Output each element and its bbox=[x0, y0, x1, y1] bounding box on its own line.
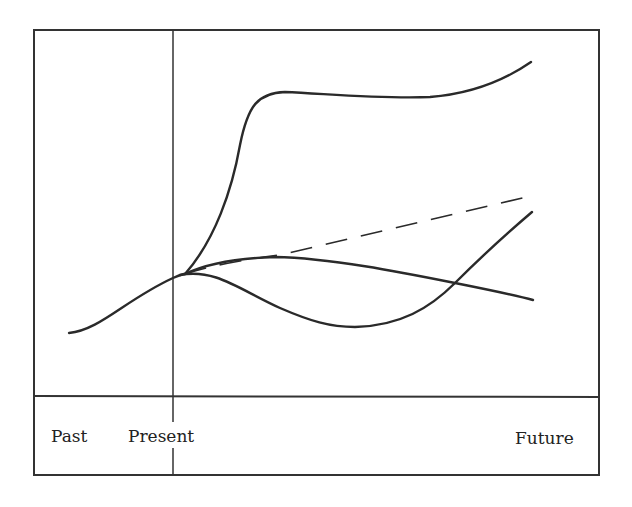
gradual-decline-curve bbox=[185, 257, 533, 300]
label-band-divider bbox=[34, 396, 599, 397]
label-future: Future bbox=[515, 428, 574, 448]
past-trend-curve bbox=[69, 273, 190, 333]
extrapolated-trend-dashed bbox=[185, 196, 531, 274]
label-past: Past bbox=[51, 426, 88, 446]
diagram-frame bbox=[34, 30, 599, 475]
surge-scenario-curve bbox=[185, 62, 531, 274]
dip-recovery-curve bbox=[180, 212, 532, 327]
label-present: Present bbox=[128, 426, 194, 446]
futures-diagram: Past Present Future bbox=[0, 0, 632, 507]
